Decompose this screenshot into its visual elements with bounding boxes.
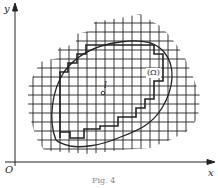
diagram-canvas	[0, 0, 218, 188]
x-axis-arrow-icon	[207, 160, 215, 165]
point-label: l	[104, 80, 107, 90]
y-axis-arrow-icon	[13, 3, 18, 11]
figure-caption: Fig. 4	[92, 176, 115, 185]
grid-mesh	[22, 10, 205, 158]
region-label: (Ω)	[146, 68, 161, 78]
point-marker	[101, 91, 105, 95]
origin-label: O	[5, 165, 13, 175]
x-axis-label: x	[208, 168, 214, 178]
y-axis-label: y	[4, 4, 10, 14]
